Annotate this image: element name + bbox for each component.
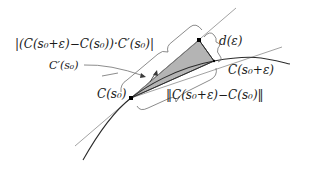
tangent-leader-arrowhead <box>140 73 146 78</box>
chord-length-label: ‖C(s₀+ε)−C(s₀)‖ <box>166 89 264 101</box>
tangent-vector-arrowhead <box>153 70 158 76</box>
tangent-label: C′(s₀) <box>49 60 79 71</box>
moved-point-label: C(s₀+ε) <box>228 64 274 76</box>
point-projection-foot <box>197 38 201 42</box>
tangent-line <box>75 8 236 146</box>
base-point-label: C(s₀) <box>97 88 127 100</box>
projection-length-label: |(C(s₀+ε)−C(s₀))·C′(s₀)| <box>15 38 154 50</box>
point-c-s0 <box>129 96 133 100</box>
tangent-direction-arrow <box>102 73 118 76</box>
point-c-s0-eps <box>213 60 215 62</box>
distance-label: d(ε) <box>219 35 242 47</box>
tangent-leader-line <box>84 65 144 76</box>
